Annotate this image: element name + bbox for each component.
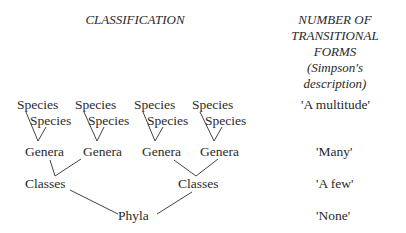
genera-node: Genera [83, 145, 122, 159]
genera-node: Genera [142, 145, 181, 159]
species-node: Species [147, 114, 188, 128]
species-node: Species [205, 114, 246, 128]
classes-node: Classes [25, 177, 66, 191]
transitional-value-classes: 'A few' [316, 177, 353, 191]
transitional-value-phyla: 'None' [316, 209, 350, 223]
genera-node: Genera [200, 145, 239, 159]
species-node: Species [30, 114, 71, 128]
transitional-value-genera: 'Many' [316, 145, 352, 159]
transitional-value-species: 'A multitude' [301, 98, 370, 112]
species-node: Species [192, 98, 233, 112]
classes-node: Classes [178, 177, 219, 191]
species-node: Species [75, 98, 116, 112]
species-node: Species [17, 98, 58, 112]
species-node: Species [134, 98, 175, 112]
phyla-node: Phyla [118, 209, 149, 223]
genera-node: Genera [25, 145, 64, 159]
species-node: Species [88, 114, 129, 128]
